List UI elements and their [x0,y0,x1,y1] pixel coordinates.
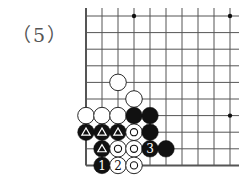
white-stone-icon [126,157,143,174]
black-stone: 1 [94,157,111,174]
white-stone [126,157,143,174]
black-stone-icon [94,141,111,158]
white-stone-icon [110,141,127,158]
white-stone [110,141,127,158]
go-board-diagram: 312 [0,0,250,183]
move-number-label: 1 [98,159,106,173]
white-stone-icon [94,107,111,124]
white-stone-icon [126,124,143,141]
white-stone-icon [78,107,95,124]
black-stone: 3 [142,141,159,158]
black-stone [142,107,159,124]
stones-layer: 312 [78,74,175,174]
white-stone-icon [126,141,143,158]
black-stone [78,124,95,141]
black-stone [126,107,143,124]
move-number-label: 3 [146,142,154,156]
white-stone [126,91,143,108]
white-stone [110,74,127,91]
black-stone-icon [158,141,175,158]
white-stone-icon [126,91,143,108]
black-stone [142,124,159,141]
white-stone [78,107,95,124]
white-stone [126,141,143,158]
star-point-icon [132,14,136,18]
star-point-icon [228,113,232,117]
black-stone-icon [142,124,159,141]
white-stone-icon [110,107,127,124]
black-stone-icon [78,124,95,141]
white-stone [126,124,143,141]
move-number-label: 2 [114,159,122,173]
black-stone-icon [110,124,127,141]
star-point-icon [228,14,232,18]
white-stone [110,107,127,124]
white-stone-icon [110,74,127,91]
black-stone [110,124,127,141]
black-stone [94,124,111,141]
white-stone [94,107,111,124]
black-stone-icon [94,124,111,141]
black-stone [158,141,175,158]
black-stone-icon [126,107,143,124]
white-stone: 2 [110,157,127,174]
black-stone [94,141,111,158]
black-stone-icon [142,107,159,124]
